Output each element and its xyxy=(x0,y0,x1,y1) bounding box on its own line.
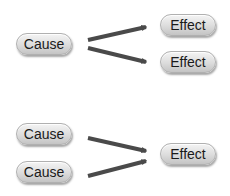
node-label: Cause xyxy=(24,36,64,52)
cause-effect-diagram: Cause Effect Effect Cause Cause Effect xyxy=(0,0,230,196)
arrow-icon xyxy=(88,48,146,62)
node-label: Cause xyxy=(24,164,64,180)
arrow-icon xyxy=(88,27,146,40)
bottom-cause-node-1: Cause xyxy=(16,123,72,145)
bottom-effect-node: Effect xyxy=(160,143,216,165)
arrow-icon xyxy=(88,138,146,151)
node-label: Cause xyxy=(24,126,64,142)
node-label: Effect xyxy=(170,17,206,33)
top-effect-node-1: Effect xyxy=(160,14,216,36)
top-effect-node-2: Effect xyxy=(160,51,216,73)
node-label: Effect xyxy=(170,146,206,162)
arrow-icon xyxy=(88,161,146,176)
top-cause-node: Cause xyxy=(16,33,72,55)
node-label: Effect xyxy=(170,54,206,70)
bottom-cause-node-2: Cause xyxy=(16,161,72,183)
